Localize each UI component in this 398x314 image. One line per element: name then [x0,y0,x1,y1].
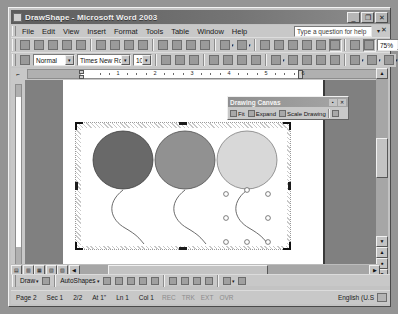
drawing-canvas-toolbar-minimize[interactable]: ▪ [329,99,337,106]
open-icon[interactable] [33,39,46,52]
selection-handle[interactable] [245,240,250,245]
selection-handle[interactable] [266,240,271,245]
research-icon[interactable] [137,39,150,52]
selection-handles[interactable] [224,188,271,245]
diagram-icon[interactable] [179,276,190,286]
menu-item-table[interactable]: Table [167,26,193,37]
spelling-status-icon[interactable] [377,293,387,302]
canvas-handle-bottom-right[interactable] [283,242,291,250]
reading-view-icon[interactable]: ▨ [57,265,68,275]
draw-dropdown-icon[interactable]: ▾ [36,278,39,284]
balloon-string-1[interactable] [112,190,144,244]
menu-item-tools[interactable]: Tools [142,26,168,37]
status-language[interactable]: English (U.S [338,294,374,301]
redo-icon[interactable] [236,39,249,52]
font-combo[interactable]: Times New Roman ▾ [77,54,131,66]
style-combo[interactable]: Normal ▾ [33,54,75,66]
new-document-icon[interactable] [19,39,32,52]
previous-page-button[interactable]: ▲ [376,247,388,258]
bold-button[interactable] [160,54,173,67]
horizontal-scroll-track[interactable] [80,265,370,275]
underline-button[interactable] [188,54,201,67]
canvas-handle-right[interactable] [288,182,291,190]
oval-icon[interactable] [137,276,148,286]
print-layout-view-icon[interactable]: ▦ [34,265,45,275]
decrease-indent-icon[interactable] [315,54,328,67]
drawing-canvas[interactable] [75,122,291,250]
selection-handle[interactable] [266,192,271,197]
text-wrapping-button[interactable] [331,109,340,119]
spelling-check-icon[interactable] [123,39,136,52]
permission-icon[interactable] [61,39,74,52]
menu-item-file[interactable]: File [18,26,38,37]
fit-canvas-button[interactable]: Fit [229,109,246,119]
copy-icon[interactable] [171,39,184,52]
wordart-icon[interactable] [167,276,178,286]
menu-item-edit[interactable]: Edit [38,26,59,37]
formatting-toolbar-grip[interactable] [12,54,16,66]
horizontal-scroll-thumb[interactable] [108,265,267,275]
font-size-combo[interactable]: 10 ▾ [133,54,152,66]
normal-view-icon[interactable]: ▤ [11,265,22,275]
menu-item-format[interactable]: Format [110,26,142,37]
status-ext[interactable]: EXT [198,294,217,301]
drawing-canvas-inner[interactable] [81,128,287,246]
increase-indent-icon[interactable] [329,54,342,67]
align-right-icon[interactable] [236,54,249,67]
scroll-up-button[interactable]: ▲ [376,68,388,79]
undo-icon[interactable] [219,39,232,52]
clip-art-icon[interactable] [191,276,202,286]
balloon-3[interactable] [217,131,277,189]
line-icon[interactable] [101,276,112,286]
font-size-dropdown-icon[interactable]: ▾ [142,55,151,65]
scroll-right-button[interactable]: ▶ [369,265,380,275]
ask-a-question-input[interactable]: Type a question for help [294,26,372,37]
title-bar[interactable]: DrawShape - Microsoft Word 2003 _ ❐ ✕ [11,10,390,24]
balloon-string-2[interactable] [174,190,206,244]
horizontal-ruler[interactable]: ⌐ 1 2 3 4 5 6 [11,68,390,80]
close-button[interactable]: ✕ [375,12,388,23]
menu-item-view[interactable]: View [59,26,83,37]
columns-icon[interactable] [315,39,328,52]
outline-view-icon[interactable]: ▧ [46,265,57,275]
insert-hyperlink-icon[interactable] [259,39,272,52]
balloon-drawing[interactable] [81,128,287,246]
draw-menu-button[interactable]: Draw [18,277,37,284]
ruler-track[interactable]: 1 2 3 4 5 6 [27,69,377,79]
show-formatting-icon[interactable] [363,39,376,52]
style-dropdown-icon[interactable]: ▾ [65,55,74,65]
justify-icon[interactable] [250,54,263,67]
selection-handle[interactable] [266,216,271,221]
highlight-icon[interactable] [366,54,379,67]
canvas-handle-bottom-left[interactable] [75,242,83,250]
drawing-canvas-toolbar-titlebar[interactable]: Drawing Canvas ▪ ✕ [228,97,348,107]
numbering-icon[interactable] [287,54,300,67]
vertical-scrollbar[interactable]: ▲ ▼ ▲ ● ▼ [376,68,388,280]
print-icon[interactable] [95,39,108,52]
align-center-icon[interactable] [222,54,235,67]
canvas-handle-bottom[interactable] [179,247,187,250]
scale-drawing-button[interactable]: Scale Drawing [278,109,327,119]
vertical-scroll-thumb[interactable] [376,138,388,178]
status-ovr[interactable]: OVR [216,294,236,301]
fill-color-dropdown-icon[interactable]: ▾ [232,278,235,284]
balloon-string-3[interactable] [236,190,268,244]
align-left-icon[interactable] [208,54,221,67]
menu-item-insert[interactable]: Insert [83,26,110,37]
minimize-button[interactable]: _ [347,12,360,23]
line-color-icon[interactable] [236,276,247,286]
first-line-indent-marker[interactable] [79,70,84,74]
expand-canvas-button[interactable]: Expand [247,109,277,119]
vertical-ruler[interactable] [11,80,25,280]
tables-borders-icon[interactable] [273,39,286,52]
cut-icon[interactable] [157,39,170,52]
drawing-icon[interactable] [329,39,342,52]
selection-handle[interactable] [224,216,229,221]
autoshapes-dropdown-icon[interactable]: ▾ [97,278,100,284]
bullets-icon[interactable] [301,54,314,67]
standard-toolbar-grip[interactable] [12,39,16,51]
maximize-button[interactable]: ❐ [361,12,374,23]
balloon-2[interactable] [155,131,215,189]
menu-item-window[interactable]: Window [193,26,228,37]
document-map-icon[interactable] [349,39,362,52]
